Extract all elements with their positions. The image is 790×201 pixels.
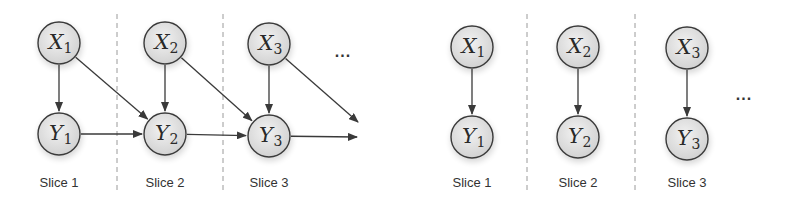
slice-labels: Slice 1Slice 2Slice 3...Slice 1Slice 2Sl… <box>39 43 752 190</box>
edge-y3-to-open <box>291 136 357 137</box>
node-x1: X1 <box>38 22 82 68</box>
node-subscript: 1 <box>64 131 73 147</box>
slice-label: Slice 2 <box>558 175 597 190</box>
node-subscript: 3 <box>692 45 701 61</box>
node-label: X <box>460 34 478 58</box>
node-subscript: 3 <box>692 136 701 152</box>
node-y2: Y2 <box>557 116 601 162</box>
node-x2: X2 <box>557 26 601 72</box>
node-x3: X3 <box>666 27 710 73</box>
slice-label: Slice 1 <box>39 175 78 190</box>
node-x1: X1 <box>451 26 495 72</box>
node-x3: X3 <box>248 23 292 69</box>
edge-x3-to-open <box>286 59 358 122</box>
edge-x1-to-y2 <box>76 57 148 119</box>
node-x2: X2 <box>144 22 188 68</box>
node-y3: Y3 <box>248 115 292 161</box>
nodes: X1X2X3Y1Y2Y3X1X2X3Y1Y2Y3 <box>38 22 710 164</box>
node-label: X <box>675 35 693 59</box>
slice-label: Slice 3 <box>249 175 288 190</box>
slice-label: Slice 1 <box>452 175 491 190</box>
node-y2: Y2 <box>144 113 188 159</box>
node-subscript: 2 <box>170 131 179 147</box>
node-y1: Y1 <box>38 113 82 159</box>
node-y3: Y3 <box>666 118 710 164</box>
node-subscript: 3 <box>274 133 283 149</box>
edge-x2-to-y3 <box>181 58 251 121</box>
diagram-canvas: X1X2X3Y1Y2Y3X1X2X3Y1Y2Y3 Slice 1Slice 2S… <box>0 0 790 201</box>
node-subscript: 1 <box>64 40 73 56</box>
node-y1: Y1 <box>451 116 495 162</box>
edge-y2-to-y3 <box>187 134 246 135</box>
node-subscript: 3 <box>274 41 283 57</box>
node-subscript: 2 <box>583 134 592 150</box>
node-label: X <box>47 30 65 54</box>
node-subscript: 2 <box>170 40 179 56</box>
slice-label: Slice 3 <box>667 175 706 190</box>
node-label: X <box>257 31 275 55</box>
node-label: X <box>566 34 584 58</box>
slice-label: Slice 2 <box>145 175 184 190</box>
node-subscript: 1 <box>477 44 486 60</box>
ellipsis-continuation: ... <box>335 43 351 60</box>
ellipsis-continuation: ... <box>736 86 752 103</box>
node-label: X <box>153 30 171 54</box>
node-subscript: 1 <box>477 134 486 150</box>
node-subscript: 2 <box>583 44 592 60</box>
